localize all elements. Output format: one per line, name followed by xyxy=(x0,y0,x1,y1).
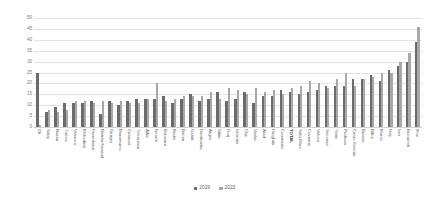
bar-group xyxy=(178,18,187,127)
x-axis-label: Ialomita xyxy=(235,129,239,144)
x-axis-label-cell: Salaj xyxy=(43,128,52,186)
x-axis-label-cell: Covasna xyxy=(304,128,313,186)
bar-group xyxy=(151,18,160,127)
y-axis-tick-label: 15 xyxy=(14,92,32,97)
bar-group xyxy=(142,18,151,127)
y-axis: 05101520253035404550 xyxy=(14,18,32,127)
x-axis-label: Botosani xyxy=(163,129,167,146)
x-axis-label: Mures xyxy=(379,129,383,141)
bar-2023 xyxy=(120,101,122,127)
bar-2023 xyxy=(174,99,176,127)
x-axis-label-cell: Suceava xyxy=(323,128,332,186)
x-axis-label-cell: Maramures xyxy=(115,128,124,186)
x-axis-label: Maramures xyxy=(117,129,121,151)
x-axis-label-cell: Iasi xyxy=(395,128,404,186)
bar-2023 xyxy=(210,92,212,127)
legend-swatch-icon xyxy=(194,187,198,191)
bar-2023 xyxy=(228,88,230,127)
x-axis-label-cell: Olt xyxy=(34,128,43,186)
x-axis-label-cell: Giurgiu xyxy=(106,128,115,186)
x-axis-label: Braila xyxy=(172,129,176,140)
y-axis-tick-label: 5 xyxy=(14,114,32,119)
bar-group xyxy=(169,18,178,127)
x-axis-label-cell: Gorj xyxy=(223,128,232,186)
bar-group xyxy=(214,18,223,127)
bar-group xyxy=(332,18,341,127)
x-axis-label: Gorj xyxy=(226,129,230,137)
bar-chart: 05101520253035404550 OltSalajBuzauTulcea… xyxy=(0,0,429,202)
bar-group xyxy=(79,18,88,127)
x-axis-label: Buzau xyxy=(54,129,58,141)
bar-2023 xyxy=(273,90,275,127)
x-axis-label-cell: Harghita xyxy=(268,128,277,186)
bar-2023 xyxy=(219,99,221,127)
bar-2023 xyxy=(39,125,41,127)
legend-item[interactable]: 2019 xyxy=(194,186,210,191)
bar-2023 xyxy=(147,99,149,127)
x-axis-label-cell: Caras-Severin xyxy=(350,128,359,186)
bar-group xyxy=(205,18,214,127)
legend-label: 2019 xyxy=(199,186,210,191)
x-axis-label-cell: Bistrita-Nasaud xyxy=(97,128,106,186)
bar-group xyxy=(88,18,97,127)
bar-2023 xyxy=(345,73,347,128)
x-axis-label-cell: Arad xyxy=(259,128,268,186)
x-axis-label-cell: Braila xyxy=(169,128,178,186)
bar-2023 xyxy=(327,88,329,127)
bar-2023 xyxy=(381,73,383,128)
x-axis-label: Alba xyxy=(144,129,148,138)
x-axis-label-cell: Constanta xyxy=(277,128,286,186)
y-axis-tick-label: 30 xyxy=(14,59,32,64)
x-axis-label: Harghita xyxy=(271,129,275,145)
bar-group xyxy=(350,18,359,127)
bar-2023 xyxy=(417,27,419,127)
x-axis-label-cell: Satu Mare xyxy=(295,128,304,186)
x-axis-label-cell: Arges xyxy=(205,128,214,186)
legend-label: 2023 xyxy=(225,186,236,191)
x-axis-label: Teleorman xyxy=(135,129,139,149)
chart-legend: 20192023 xyxy=(0,186,429,191)
bar-group xyxy=(97,18,106,127)
x-axis-label-cell: Valcea xyxy=(313,128,322,186)
x-axis-label: Suceava xyxy=(325,129,329,146)
bar-group xyxy=(43,18,52,127)
x-axis-label-cell: TOTAL xyxy=(286,128,295,186)
bar-group xyxy=(106,18,115,127)
bar-group xyxy=(160,18,169,127)
bar-2023 xyxy=(129,103,131,127)
bar-2023 xyxy=(93,103,95,127)
x-axis-label-cell: Calarasi xyxy=(124,128,133,186)
bar-2023 xyxy=(390,73,392,128)
bar-group xyxy=(124,18,133,127)
x-axis-label: Mehedinti xyxy=(81,129,85,148)
x-axis-label-cell: Bucuresti xyxy=(404,128,413,186)
bar-group xyxy=(368,18,377,127)
bar-2023 xyxy=(201,96,203,127)
x-axis-label-cell: Bacau xyxy=(178,128,187,186)
x-axis-label-cell: Ialomita xyxy=(232,128,241,186)
bar-2023 xyxy=(408,53,410,127)
x-axis-label-cell: Teleorman xyxy=(133,128,142,186)
x-axis-label: Arad xyxy=(262,129,266,138)
legend-item[interactable]: 2023 xyxy=(219,186,235,191)
bar-2023 xyxy=(57,112,59,127)
bar-group xyxy=(196,18,205,127)
y-axis-tick-label: 50 xyxy=(14,16,32,21)
bar-group xyxy=(341,18,350,127)
x-axis-label: Sibiu xyxy=(217,129,221,139)
x-axis-label-cell: Brasov xyxy=(359,128,368,186)
bar-series-container xyxy=(34,18,422,127)
bar-group xyxy=(259,18,268,127)
bar-group xyxy=(413,18,422,127)
x-axis-label: Bacau xyxy=(181,129,185,141)
y-axis-tick-label: 35 xyxy=(14,48,32,53)
x-axis-label-cell: Timis xyxy=(332,128,341,186)
bar-2023 xyxy=(183,96,185,127)
bar-group xyxy=(250,18,259,127)
y-axis-tick-label: 25 xyxy=(14,70,32,75)
x-axis-label-cell: Galati xyxy=(187,128,196,186)
bar-2023 xyxy=(264,92,266,127)
bar-group xyxy=(377,18,386,127)
bar-group xyxy=(34,18,43,127)
bar-2023 xyxy=(318,83,320,127)
